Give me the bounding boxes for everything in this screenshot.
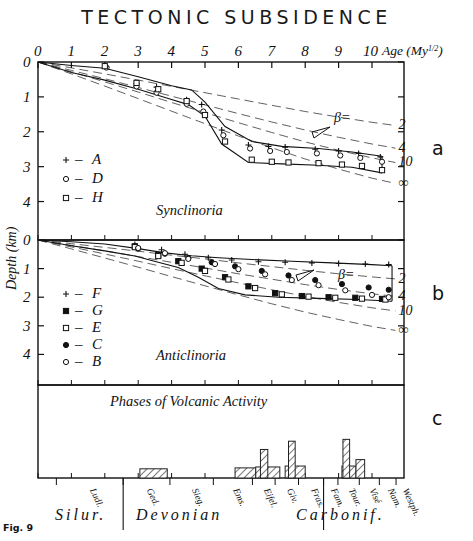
data-point-G xyxy=(326,295,331,300)
y-tick-label: 2 xyxy=(23,124,31,140)
stage-label: Giv. xyxy=(285,487,301,505)
data-point-F xyxy=(309,260,315,266)
x-tick-label: 1 xyxy=(67,43,75,59)
legend-dash: – xyxy=(74,302,83,318)
panel-letter-a: a xyxy=(432,137,444,159)
legend-panel-b: –F–G–E–C–B xyxy=(63,285,103,369)
data-point-F xyxy=(386,262,392,268)
data-point-E xyxy=(359,296,364,301)
volcanic-bar xyxy=(343,439,350,478)
data-point-B xyxy=(263,272,268,277)
legend-symbol-E xyxy=(63,325,68,330)
y-tick-label: 2 xyxy=(23,289,31,305)
volcanic-bar xyxy=(235,468,256,478)
period-label-devonian: Devonian xyxy=(135,506,222,523)
data-point-B xyxy=(136,245,141,250)
data-point-D xyxy=(268,148,273,153)
beta-value-label: ∞ xyxy=(398,322,408,337)
volcanic-bar xyxy=(356,460,365,478)
legend-dash: – xyxy=(74,170,83,186)
data-point-H xyxy=(339,162,344,167)
stage-label: Nam. xyxy=(385,486,403,510)
data-point-D xyxy=(314,151,319,156)
data-point-H xyxy=(269,159,274,164)
x-tick-label: 9 xyxy=(335,43,343,59)
legend-dash: – xyxy=(74,336,83,352)
data-point-H xyxy=(134,80,139,85)
legend-symbol-F xyxy=(63,291,69,297)
data-point-D xyxy=(221,133,226,138)
x-tick-label: 3 xyxy=(133,43,142,59)
data-point-B xyxy=(289,277,294,282)
data-point-D xyxy=(338,153,343,158)
data-point-A xyxy=(199,102,205,108)
legend-dash: – xyxy=(74,285,83,301)
data-point-H xyxy=(359,163,364,168)
data-point-E xyxy=(179,260,184,265)
y-tick-label: 0 xyxy=(23,54,31,70)
panel-letter-b: b xyxy=(432,282,444,304)
stage-label: Visé xyxy=(368,487,384,506)
stage-label: Sieg. xyxy=(190,487,207,508)
y-tick-label: 3 xyxy=(22,159,31,175)
pointer-arrow-b xyxy=(296,270,314,281)
data-point-H xyxy=(102,64,107,69)
stage-label: Tour. xyxy=(347,487,364,508)
y-tick-label: 4 xyxy=(23,194,31,210)
volcanic-bar xyxy=(260,449,267,478)
data-point-H xyxy=(379,168,384,173)
beta-value-label: 10 xyxy=(398,303,412,318)
y-axis-label: Depth (km) xyxy=(4,226,20,291)
x-tick-label: 0 xyxy=(34,43,42,59)
data-point-D xyxy=(247,146,252,151)
data-point-D xyxy=(358,155,363,160)
legend-label-D: D xyxy=(91,170,103,186)
data-point-G xyxy=(273,291,278,296)
volcanic-bar xyxy=(289,441,296,478)
x-tick-label: 2 xyxy=(101,43,109,59)
data-point-E xyxy=(333,295,338,300)
legend-dash: – xyxy=(74,319,83,335)
y-tick-label: 4 xyxy=(23,346,31,362)
legend-symbol-G xyxy=(63,308,68,313)
beta-value-label: ∞ xyxy=(398,175,408,190)
data-point-E xyxy=(306,294,311,299)
data-point-C xyxy=(313,277,318,282)
data-point-H xyxy=(222,139,227,144)
stratigraphic-scale: Ludl.Ged.Sieg.Ems.Eifel.Giv.Fras.Fam.Tou… xyxy=(55,478,422,530)
data-point-H xyxy=(202,112,207,117)
data-point-H xyxy=(156,87,161,92)
volcanic-bars-panel-c xyxy=(140,439,365,478)
beta-equals-label-b: β= xyxy=(337,267,354,282)
data-point-E xyxy=(156,253,161,258)
x-tick-label: 4 xyxy=(168,43,176,59)
legend-dash: – xyxy=(74,189,83,205)
y-tick-label: 1 xyxy=(23,89,31,105)
data-point-H xyxy=(184,98,189,103)
legend-symbol-H xyxy=(63,195,68,200)
legend-dash: – xyxy=(74,151,83,167)
beta-value-label: 2 xyxy=(398,271,405,286)
volcanic-bar xyxy=(140,469,167,478)
data-point-D xyxy=(379,159,384,164)
legend-label-A: A xyxy=(91,151,102,167)
data-point-B xyxy=(162,251,167,256)
x-axis-top-ticks: 012345678910Age (My1/2) xyxy=(34,43,443,478)
period-label-carboniferous: Carbonif. xyxy=(296,506,385,524)
beta-value-label: 10 xyxy=(398,154,412,169)
figure-canvas: 012345678910Age (My1/2) 01234 01234 2410… xyxy=(0,0,473,541)
data-point-B xyxy=(386,295,391,300)
x-tick-label: 10 xyxy=(363,43,379,59)
data-point-H xyxy=(249,157,254,162)
y-tick-label: 0 xyxy=(23,232,31,248)
legend-label-C: C xyxy=(92,336,103,352)
legend-symbol-D xyxy=(63,176,68,181)
legend-dash: – xyxy=(74,353,83,369)
data-point-F xyxy=(336,260,342,266)
data-point-H xyxy=(316,161,321,166)
data-point-B xyxy=(186,256,191,261)
panel-a-caption: Synclinoria xyxy=(156,202,223,218)
beta-value-label: 2 xyxy=(398,117,405,132)
legend-label-F: F xyxy=(91,285,102,301)
data-point-H xyxy=(286,160,291,165)
